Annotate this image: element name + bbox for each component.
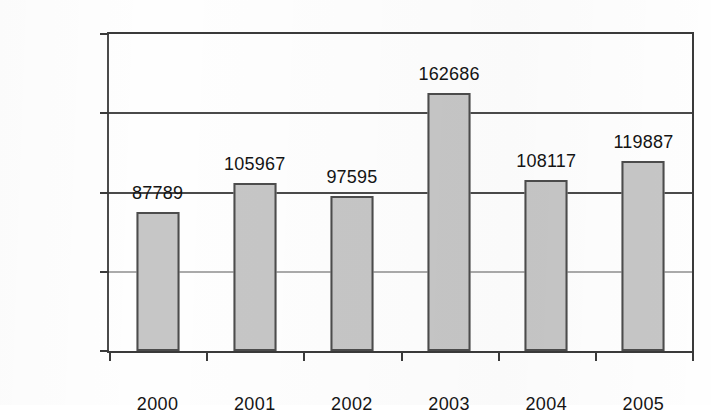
y-axis-tick-50000 [100,271,109,273]
bar-slot-2002: 97595 [303,34,400,351]
y-axis-tick-150000 [100,112,109,114]
y-axis-tick-200000 [100,33,109,35]
x-axis-tick-1 [206,351,208,361]
x-axis-label-2001: 2001 [206,394,303,414]
bar-value-label-2000: 87789 [132,183,183,204]
bar-slot-2005: 119887 [595,34,692,351]
bar-2002[interactable] [330,196,373,351]
bar-slot-2003: 162686 [401,34,498,351]
x-axis-label-2000: 2000 [109,394,206,414]
bar-value-label-2005: 119887 [613,132,673,153]
x-axis-label-2005: 2005 [595,394,692,414]
y-axis-tick-0 [100,350,109,352]
y-axis-tick-100000 [100,192,109,194]
plot-area: 050 000100 000150 000200 000 87789105967… [107,32,694,353]
bar-value-label-2004: 108117 [516,151,576,172]
bar-2001[interactable] [233,183,276,351]
bar-2004[interactable] [525,180,568,351]
x-axis-tick-3 [401,351,403,361]
x-axis-label-2003: 2003 [401,394,498,414]
x-axis-tick-6 [692,351,694,361]
bar-slot-2000: 87789 [109,34,206,351]
x-axis-tick-2 [303,351,305,361]
bar-slot-2001: 105967 [206,34,303,351]
bar-2003[interactable] [428,93,471,351]
bar-value-label-2003: 162686 [418,64,479,85]
x-axis-label-2002: 2002 [303,394,400,414]
bar-value-label-2002: 97595 [326,167,377,188]
bar-2000[interactable] [136,212,179,351]
x-axis-tick-4 [498,351,500,361]
x-axis-tick-5 [595,351,597,361]
bar-value-label-2001: 105967 [224,154,285,175]
x-axis-tick-0 [109,351,111,361]
bar-slot-2004: 108117 [498,34,595,351]
x-axis-label-2004: 2004 [498,394,595,414]
bar-2005[interactable] [622,161,665,351]
